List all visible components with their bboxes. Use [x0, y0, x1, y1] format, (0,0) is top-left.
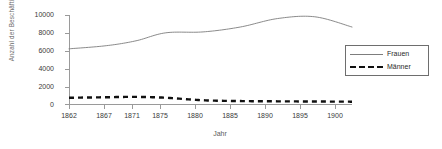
legend-item-frauen: Frauen	[346, 48, 430, 61]
series-line-maenner	[69, 97, 352, 102]
legend-line-sample-solid-icon	[350, 54, 383, 55]
legend: Frauen Männer	[345, 45, 429, 76]
series-line-frauen	[69, 16, 352, 49]
legend-label-frauen: Frauen	[387, 50, 409, 57]
chart-figure: Anzahl der Beschäftigten Jahr 0 2000 400…	[0, 0, 442, 149]
legend-item-maenner: Männer	[346, 61, 430, 74]
legend-line-sample-dashed-icon	[350, 66, 383, 68]
legend-label-maenner: Männer	[387, 63, 411, 70]
